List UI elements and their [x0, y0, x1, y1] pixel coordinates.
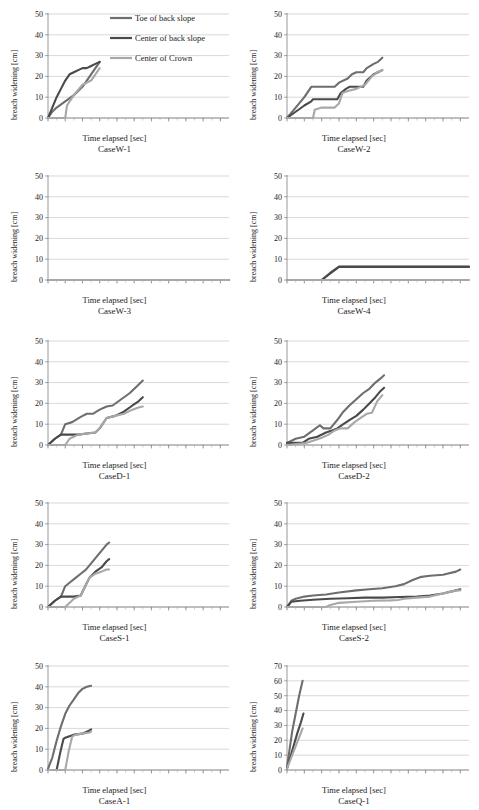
svg-text:10: 10	[35, 420, 43, 429]
svg-text:0: 0	[278, 766, 282, 774]
svg-text:10: 10	[274, 751, 282, 760]
series-line-2	[48, 68, 100, 118]
svg-text:40: 40	[274, 193, 282, 202]
svg-text:40: 40	[35, 31, 43, 40]
gridlines-0	[48, 14, 229, 118]
plot-area-9: 0102030405060700204060801001201401601802…	[239, 652, 479, 810]
chart-panel-3: 01020304050020406080100120140160180200br…	[239, 162, 479, 327]
y-axis-label: breach widening [cm]	[10, 377, 19, 447]
chart-panel-0: 01020304050020406080100120140160180200To…	[0, 0, 239, 162]
x-axis-label: Time elapsed [sec]	[24, 460, 205, 470]
svg-text:50: 50	[274, 172, 282, 181]
gridlines-8	[48, 666, 229, 770]
svg-text:0: 0	[39, 766, 43, 774]
svg-text:10: 10	[274, 93, 282, 102]
chart-title: CaseW-2	[263, 144, 445, 154]
chart-svg-8: 01020304050020406080100120140160180200	[0, 652, 239, 774]
svg-text:20: 20	[274, 399, 282, 408]
chart-title: CaseW-3	[24, 306, 205, 316]
series-line-0	[287, 266, 469, 280]
svg-text:10: 10	[35, 582, 43, 591]
series-line-1	[287, 70, 382, 118]
svg-text:40: 40	[274, 31, 282, 40]
svg-text:0: 0	[39, 603, 43, 611]
plot-area-3: 01020304050020406080100120140160180200br…	[239, 162, 479, 327]
chart-svg-0: 01020304050020406080100120140160180200To…	[0, 0, 239, 122]
chart-title: CaseW-4	[263, 306, 445, 316]
svg-text:60: 60	[274, 677, 282, 686]
svg-text:20: 20	[35, 399, 43, 408]
svg-text:50: 50	[35, 337, 43, 346]
svg-text:50: 50	[35, 172, 43, 181]
chart-panel-4: 01020304050020406080100120140160180200br…	[0, 327, 239, 489]
svg-text:10: 10	[35, 745, 43, 754]
chart-title: CaseS-1	[24, 633, 205, 643]
gridlines-6	[48, 503, 229, 607]
svg-text:30: 30	[35, 51, 43, 60]
chart-svg-2: 01020304050020406080100120140160180200	[0, 162, 239, 284]
chart-panel-7: 01020304050020406080100120140160180200br…	[239, 489, 479, 652]
chart-svg-5: 01020304050020406080100120140160180200	[239, 327, 479, 449]
x-axis-label: Time elapsed [sec]	[24, 295, 205, 305]
chart-svg-6: 01020304050020406080100120140160180200	[0, 489, 239, 611]
chart-panel-5: 01020304050020406080100120140160180200br…	[239, 327, 479, 489]
y-axis-label: breach widening [cm]	[10, 212, 19, 282]
series-line-1	[287, 267, 469, 280]
plot-area-5: 01020304050020406080100120140160180200br…	[239, 327, 479, 489]
svg-text:40: 40	[274, 358, 282, 367]
svg-text:20: 20	[35, 724, 43, 733]
plot-area-0: 01020304050020406080100120140160180200To…	[0, 0, 239, 162]
svg-text:20: 20	[274, 561, 282, 570]
svg-text:30: 30	[274, 540, 282, 549]
chart-panel-2: 01020304050020406080100120140160180200br…	[0, 162, 239, 327]
plot-area-4: 01020304050020406080100120140160180200br…	[0, 327, 239, 489]
svg-text:0: 0	[39, 441, 43, 449]
chart-svg-9: 0102030405060700204060801001201401601802…	[239, 652, 479, 774]
svg-text:20: 20	[35, 234, 43, 243]
y-axis-label: breach widening [cm]	[10, 50, 19, 120]
svg-text:30: 30	[35, 540, 43, 549]
svg-text:50: 50	[35, 10, 43, 19]
x-axis-label: Time elapsed [sec]	[263, 622, 445, 632]
svg-text:40: 40	[35, 358, 43, 367]
svg-text:40: 40	[35, 683, 43, 692]
x-axis-label: Time elapsed [sec]	[24, 785, 205, 795]
svg-text:20: 20	[35, 72, 43, 81]
chart-title: CaseS-2	[263, 633, 445, 643]
gridlines-3	[287, 176, 469, 280]
legend-label-1: Center of back slope	[135, 33, 205, 43]
chart-title: CaseW-1	[24, 144, 205, 154]
x-axis-label: Time elapsed [sec]	[263, 460, 445, 470]
svg-text:50: 50	[274, 499, 282, 508]
chart-title: CaseD-1	[24, 471, 205, 481]
svg-text:20: 20	[274, 234, 282, 243]
chart-svg-4: 01020304050020406080100120140160180200	[0, 327, 239, 449]
y-axis-label: breach widening [cm]	[249, 377, 258, 447]
svg-text:0: 0	[278, 441, 282, 449]
svg-text:20: 20	[274, 736, 282, 745]
y-axis-label: breach widening [cm]	[249, 539, 258, 609]
svg-text:40: 40	[274, 520, 282, 529]
series-line-1	[48, 559, 109, 607]
y-axis-label: breach widening [cm]	[10, 539, 19, 609]
x-axis-label: Time elapsed [sec]	[24, 133, 205, 143]
y-axis-label: breach widening [cm]	[249, 702, 258, 772]
chart-svg-1: 01020304050020406080100120140160180200	[239, 0, 479, 122]
svg-text:40: 40	[35, 193, 43, 202]
svg-text:30: 30	[274, 213, 282, 222]
svg-text:50: 50	[35, 499, 43, 508]
series-line-0	[48, 62, 100, 118]
gridlines-7	[287, 503, 469, 607]
legend-label-2: Center of Crown	[135, 53, 193, 63]
chart-panel-9: 0102030405060700204060801001201401601802…	[239, 652, 479, 810]
plot-area-8: 01020304050020406080100120140160180200br…	[0, 652, 239, 810]
chart-svg-7: 01020304050020406080100120140160180200	[239, 489, 479, 611]
x-axis-label: Time elapsed [sec]	[24, 622, 205, 632]
series-line-0	[48, 686, 91, 769]
svg-text:10: 10	[35, 93, 43, 102]
series-line-0	[287, 375, 384, 443]
svg-text:30: 30	[35, 703, 43, 712]
y-axis-label: breach widening [cm]	[249, 212, 258, 282]
chart-panel-8: 01020304050020406080100120140160180200br…	[0, 652, 239, 810]
svg-text:20: 20	[274, 72, 282, 81]
